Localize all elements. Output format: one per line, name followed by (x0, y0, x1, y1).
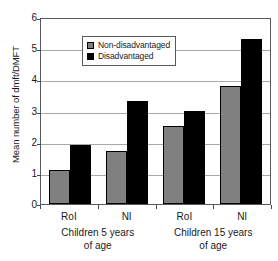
x-group-label-line1: Children 5 years (61, 227, 134, 238)
x-axis-tickmark (98, 205, 99, 209)
x-category-label: NI (213, 210, 271, 224)
x-axis-group-labels: Children 5 yearsof ageChildren 15 yearso… (40, 226, 271, 258)
bar (106, 151, 127, 204)
legend-entry: Disadvantaged (87, 51, 170, 62)
x-axis-tickmark (213, 205, 214, 209)
y-tick-label: 0 (20, 200, 37, 210)
x-group-label-line2: of age (40, 239, 156, 252)
bar-chart-figure: Mean number of dmft/DMFT 0123456 Non-dis… (0, 0, 278, 261)
x-axis-tickmarks (40, 205, 271, 209)
x-category-label: RoI (156, 210, 214, 224)
y-tick-label: 4 (20, 75, 37, 85)
y-tick-label: 5 (20, 44, 37, 54)
y-tick-label: 3 (20, 107, 37, 117)
x-axis-category-labels: RoINIRoINI (40, 210, 271, 224)
bar (49, 170, 70, 204)
bar (241, 39, 262, 204)
bar (163, 126, 184, 204)
legend-label: Disadvantaged (98, 51, 153, 62)
legend-entry: Non-disadvantaged (87, 40, 170, 51)
bar (70, 145, 91, 204)
bar-group (213, 19, 270, 204)
x-group-label-line1: Children 15 years (174, 227, 252, 238)
bar (220, 86, 241, 204)
y-tick-label: 6 (20, 13, 37, 23)
bar (184, 111, 205, 205)
y-tick-label: 1 (20, 169, 37, 179)
plot-area: Non-disadvantagedDisadvantaged (40, 18, 271, 205)
y-tick-label: 2 (20, 138, 37, 148)
x-category-label: RoI (40, 210, 98, 224)
y-axis-tick-labels: 0123456 (20, 18, 37, 205)
x-axis-tickmark (40, 205, 41, 209)
x-group-label: Children 5 yearsof age (40, 226, 156, 258)
x-category-label: NI (98, 210, 156, 224)
x-group-label: Children 15 yearsof age (156, 226, 272, 258)
chart-legend: Non-disadvantagedDisadvantaged (82, 36, 176, 66)
x-group-label-line2: of age (156, 239, 272, 252)
x-axis-tickmark (271, 205, 272, 209)
x-axis-tickmark (156, 205, 157, 209)
bar (127, 101, 148, 204)
legend-swatch (87, 42, 94, 49)
legend-swatch (87, 53, 94, 60)
legend-label: Non-disadvantaged (98, 40, 170, 51)
